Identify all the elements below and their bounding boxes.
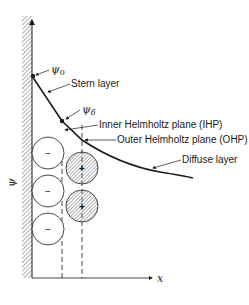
negative-ion: − [32,175,64,207]
svg-text:−: − [45,148,51,159]
positive-ion: + [66,190,98,222]
psi-delta-label: ψδ [82,103,96,117]
diffuse-leader [153,160,181,168]
negative-ion: − [32,213,64,245]
svg-text:−: − [45,186,51,197]
psi-delta-leader [66,110,80,119]
double-layer-diagram: x ψ − − − + + ψ0 Stern layer ψδ Inner He… [0,0,249,305]
ohp-label: Outer Helmholtz plane (OHP) [117,134,248,145]
negative-ion: − [32,137,64,169]
ihp-label: Inner Helmholtz plane (IHP) [99,119,222,130]
stern-leader [48,84,70,92]
y-axis-label: ψ [5,178,18,187]
psi0-label: ψ0 [51,63,65,77]
svg-text:−: − [45,224,51,235]
x-axis-label: x [157,272,164,285]
electrode-wall [22,16,32,278]
svg-text:+: + [79,201,85,212]
psi0-leader [36,70,49,75]
svg-text:+: + [79,163,85,174]
positive-ion: + [66,152,98,184]
psi0-point [31,74,35,78]
stern-layer-label: Stern layer [71,78,120,89]
diffuse-layer-label: Diffuse layer [182,154,238,165]
psi-delta-point [60,119,64,123]
